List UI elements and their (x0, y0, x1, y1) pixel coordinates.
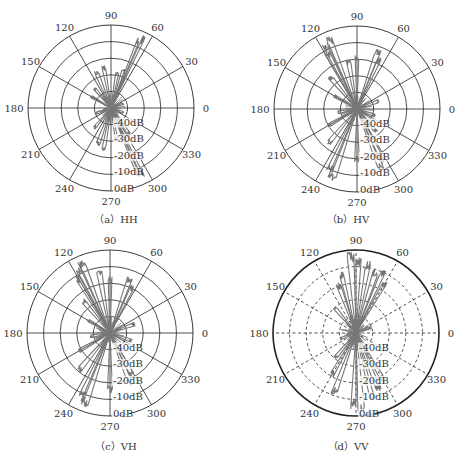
radial-tick-label: -20dB (360, 151, 390, 162)
angle-tick-label: 150 (267, 57, 286, 68)
radial-tick-label: 0dB (359, 408, 379, 419)
angle-tick-label: 210 (21, 149, 40, 160)
angle-tick-label: 270 (101, 196, 120, 207)
angle-tick-label: 270 (346, 421, 365, 432)
radial-tick-label: -10dB (113, 391, 143, 402)
panel-c-vh: 0306090120150180210240270300330-40dB-30d… (0, 226, 232, 457)
radial-tick-label: -10dB (360, 167, 390, 178)
radial-tick-label: 0dB (114, 183, 134, 194)
angle-tick-label: 120 (300, 247, 319, 258)
caption-vh: （c）VH (0, 438, 232, 453)
angle-tick-label: 240 (301, 184, 320, 195)
radial-tick-label: -30dB (360, 134, 390, 145)
polar-plot-vh: 0306090120150180210240270300330-40dB-30d… (0, 226, 232, 457)
radial-tick-label: -30dB (359, 358, 389, 369)
angle-tick-label: 180 (250, 104, 269, 115)
angle-tick-label: 90 (350, 235, 363, 246)
grid-spoke (39, 67, 111, 109)
radial-tick-label: -10dB (114, 166, 144, 177)
angle-tick-label: 150 (20, 281, 39, 292)
angle-tick-label: 300 (394, 184, 413, 195)
angle-tick-label: 60 (397, 23, 410, 34)
radial-tick-label: -40dB (114, 117, 144, 128)
polar-plot-hv: 0306090120150180210240270300330-40dB-30d… (232, 0, 464, 231)
angle-tick-label: 90 (104, 235, 117, 246)
caption-hv: （b）HV (232, 211, 464, 226)
angle-tick-label: 150 (266, 281, 285, 292)
angle-tick-label: 270 (100, 421, 119, 432)
angle-tick-label: 90 (351, 11, 364, 22)
radial-tick-label: -30dB (113, 358, 143, 369)
caption-hh: （a）HH (0, 211, 232, 226)
angle-tick-label: 240 (54, 408, 73, 419)
angle-tick-label: 0 (448, 328, 454, 339)
angle-tick-label: 330 (182, 149, 201, 160)
angle-tick-label: 60 (151, 22, 164, 33)
radial-tick-label: -40dB (359, 342, 389, 353)
angle-tick-label: 300 (393, 408, 412, 419)
angle-tick-label: 300 (148, 183, 167, 194)
angle-tick-label: 330 (427, 374, 446, 385)
radial-tick-label: -20dB (113, 375, 143, 386)
angle-tick-label: 180 (4, 103, 23, 114)
grid-spoke (315, 261, 357, 333)
angle-tick-label: 30 (431, 57, 444, 68)
angle-tick-label: 330 (181, 374, 200, 385)
angle-tick-label: 60 (150, 247, 163, 258)
polar-plot-hh: 0306090120150180210240270300330-40dB-30d… (0, 0, 232, 231)
angle-tick-label: 30 (185, 56, 198, 67)
radial-tick-label: -20dB (114, 150, 144, 161)
angle-tick-label: 180 (249, 328, 268, 339)
panel-b-hv: 0306090120150180210240270300330-40dB-30d… (232, 0, 464, 231)
angle-tick-label: 150 (21, 56, 40, 67)
radial-tick-label: -30dB (114, 133, 144, 144)
angle-tick-label: 0 (203, 103, 209, 114)
radial-tick-label: 0dB (360, 184, 380, 195)
grid-spoke (357, 37, 399, 109)
angle-tick-label: 90 (105, 10, 118, 21)
angle-tick-label: 60 (396, 247, 409, 258)
angle-tick-label: 270 (347, 197, 366, 208)
angle-tick-label: 240 (55, 183, 74, 194)
angle-tick-label: 120 (54, 247, 73, 258)
grid-spoke (70, 108, 112, 180)
angle-tick-label: 120 (55, 22, 74, 33)
angle-tick-label: 210 (266, 374, 285, 385)
angle-tick-label: 30 (184, 281, 197, 292)
angle-tick-label: 210 (20, 374, 39, 385)
angle-tick-label: 210 (267, 150, 286, 161)
radial-tick-label: -20dB (359, 375, 389, 386)
radial-tick-label: -10dB (359, 391, 389, 402)
radial-tick-label: -40dB (113, 342, 143, 353)
angle-tick-label: 0 (202, 328, 208, 339)
radial-tick-label: -40dB (360, 118, 390, 129)
panel-d-vv: 0306090120150180210240270300330-40dB-30d… (232, 226, 464, 457)
angle-tick-label: 30 (430, 281, 443, 292)
angle-tick-label: 300 (147, 408, 166, 419)
grid-spoke (111, 67, 183, 109)
angle-tick-label: 330 (428, 150, 447, 161)
angle-tick-label: 240 (300, 408, 319, 419)
radial-tick-label: 0dB (113, 408, 133, 419)
angle-tick-label: 180 (3, 328, 22, 339)
caption-vv: （d）VV (232, 438, 464, 453)
polar-plot-vv: 0306090120150180210240270300330-40dB-30d… (232, 226, 464, 457)
angle-tick-label: 0 (449, 104, 455, 115)
angle-tick-label: 120 (301, 23, 320, 34)
panel-a-hh: 0306090120150180210240270300330-40dB-30d… (0, 0, 232, 231)
